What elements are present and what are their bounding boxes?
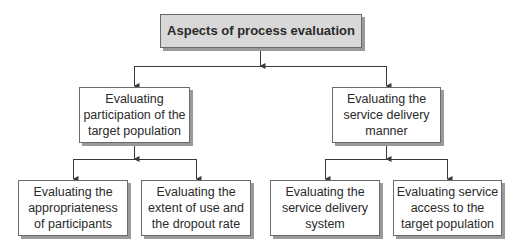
leaf-node-extent-of-use: Evaluating the extent of use and the dro…: [141, 180, 251, 236]
leaf-node-label: Evaluating the service delivery system: [282, 184, 368, 232]
branch-node-label: Evaluating the service delivery manner: [343, 91, 429, 139]
branch-node-service-delivery: Evaluating the service delivery manner: [332, 87, 441, 143]
leaf-node-appropriateness: Evaluating the appropriateness of partic…: [18, 180, 128, 236]
leaf-node-delivery-system: Evaluating the service delivery system: [270, 180, 380, 236]
leaf-node-label: Evaluating service access to the target …: [397, 184, 498, 232]
branch-node-participation: Evaluating participation of the target p…: [79, 87, 190, 143]
root-node-label: Aspects of process evaluation: [167, 23, 355, 39]
leaf-node-service-access: Evaluating service access to the target …: [393, 180, 502, 236]
root-node: Aspects of process evaluation: [160, 14, 362, 48]
leaf-node-label: Evaluating the appropriateness of partic…: [28, 184, 118, 232]
leaf-node-label: Evaluating the extent of use and the dro…: [148, 184, 244, 232]
branch-node-label: Evaluating participation of the target p…: [83, 91, 185, 139]
